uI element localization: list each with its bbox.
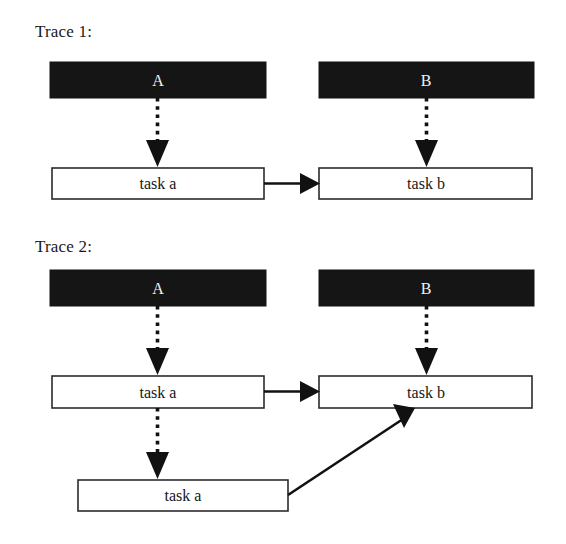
- trace-2-task-a-lower-label: task a: [165, 487, 202, 504]
- trace-1-dotted-arrow-b-to-task-b: [415, 98, 438, 167]
- trace-1-dotted-arrow-a-to-task-a: [146, 98, 169, 167]
- trace-1-task-a-label: task a: [140, 175, 177, 192]
- trace-diagram-canvas: Trace 1: A B task a task b: [0, 0, 566, 544]
- trace-1-group: Trace 1: A B task a task b: [35, 22, 534, 199]
- trace-1-event-bar-a-label: A: [152, 72, 164, 89]
- trace-2-solid-arrow-task-a-lower-to-task-b: [288, 404, 415, 495]
- trace-1-task-b-label: task b: [407, 175, 445, 192]
- trace-2-dotted-arrow-a-to-task-a: [146, 306, 169, 375]
- trace-2-group: Trace 2: A B task a task b: [35, 237, 534, 511]
- trace-2-solid-arrow-task-a-to-task-b: [264, 381, 320, 402]
- trace-2-dotted-arrow-task-a-to-task-a-lower: [146, 408, 169, 479]
- trace-2-task-b-label: task b: [407, 384, 445, 401]
- trace-1-label: Trace 1:: [35, 22, 92, 41]
- diagram-root: Trace 1: A B task a task b: [0, 0, 566, 544]
- trace-2-dotted-arrow-b-to-task-b: [415, 306, 438, 375]
- trace-1-solid-arrow-task-a-to-task-b: [264, 173, 320, 194]
- trace-2-event-bar-a-label: A: [152, 280, 164, 297]
- trace-2-event-bar-b-label: B: [421, 280, 432, 297]
- trace-1-event-bar-b-label: B: [421, 72, 432, 89]
- trace-2-task-a-upper-label: task a: [140, 384, 177, 401]
- trace-2-label: Trace 2:: [35, 237, 92, 256]
